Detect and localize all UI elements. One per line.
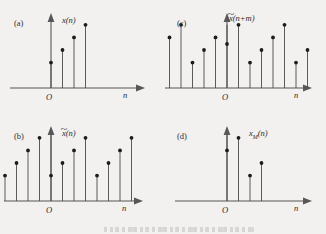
- panel-d-ylabel-symbol: x: [249, 128, 253, 138]
- panel-a-y-axis-arrow: [48, 13, 55, 22]
- panel-b-axis-label: n: [122, 203, 126, 213]
- panel-c: (c) ~x(n+m) O n: [163, 0, 326, 117]
- panel-a-ylabel: x(n): [62, 15, 76, 25]
- panel-d-plot: [163, 117, 326, 234]
- tilde-accent-c: ~: [227, 10, 234, 19]
- panel-c-axis-label: n: [294, 90, 298, 100]
- panel-b-x-axis-arrow: [134, 198, 143, 205]
- panel-c-tag: (c): [177, 18, 186, 28]
- panel-b: (b) ~x(n) O n: [0, 117, 163, 234]
- panel-b-origin-label: O: [46, 205, 52, 215]
- panel-c-origin-label: O: [222, 92, 228, 102]
- panel-a-stems: [49, 23, 87, 88]
- panel-b-ylabel: ~x(n): [62, 128, 76, 138]
- panel-c-stems: [168, 23, 310, 88]
- panel-c-ylabel: ~x(n+m): [229, 13, 255, 23]
- panel-a-plot: [0, 0, 163, 117]
- panel-c-ylabel-suffix: (n+m): [233, 13, 255, 23]
- figure-stem-plots: (a) x(n) O n (c): [0, 0, 326, 234]
- panel-d-stems: [225, 135, 263, 201]
- tilde-accent-b: ~: [60, 125, 67, 134]
- panel-b-tag: (b): [14, 131, 24, 141]
- panel-d-x-axis-arrow: [303, 198, 312, 205]
- panel-a-axis-label: n: [123, 90, 127, 100]
- panel-d-axis-label: n: [294, 203, 298, 213]
- panel-a-ylabel-suffix: (n): [66, 15, 76, 25]
- panel-a-x-axis-arrow: [136, 85, 145, 92]
- panel-d-y-axis-arrow: [224, 126, 231, 135]
- panel-d: (d) xM(n) O n: [163, 117, 326, 234]
- panel-b-y-axis-arrow: [48, 126, 55, 135]
- panel-b-plot: [0, 117, 163, 234]
- panel-d-origin-label: O: [222, 205, 228, 215]
- panel-d-ylabel-suffix: (n): [258, 128, 268, 138]
- panel-b-ylabel-symbol: ~x: [62, 128, 66, 138]
- panel-a-tag: (a): [14, 18, 23, 28]
- cropped-caption-sliver: [104, 227, 254, 232]
- panel-b-stems: [3, 135, 133, 201]
- panel-c-ylabel-symbol: ~x: [229, 13, 233, 23]
- panel-d-tag: (d): [177, 131, 187, 141]
- panel-d-ylabel: xM(n): [249, 128, 268, 140]
- panel-a-origin-label: O: [46, 92, 52, 102]
- panel-a: (a) x(n) O n: [0, 0, 163, 117]
- panel-a-ylabel-symbol: x: [62, 15, 66, 25]
